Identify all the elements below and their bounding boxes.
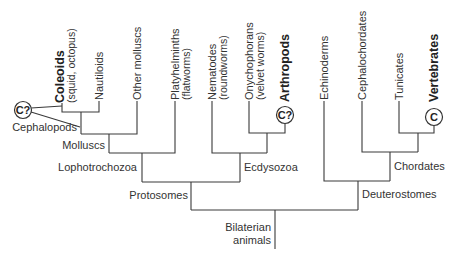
branch-cephalochordates — [362, 101, 418, 152]
marker-text: C? — [278, 109, 293, 121]
leaf-label-tunicates: Tunicates — [393, 52, 405, 100]
leaf-sublabel-nematodes: (roundworms) — [217, 35, 229, 100]
clade-labels: Cephalopods Molluscs Lophotrochozoa Ecdy… — [12, 121, 445, 246]
leaf-label-arthropods: Arthropods — [278, 34, 292, 102]
root-label-line1: Bilaterian — [225, 221, 271, 233]
leaf-label-nautiloids: Nautiloids — [93, 51, 105, 100]
leaf-label-echinoderms: Echinoderms — [318, 35, 330, 100]
marker-vertebrates: C — [426, 109, 443, 126]
branch-echinoderms — [324, 101, 390, 181]
clade-label-cephalopods: Cephalopods — [12, 121, 77, 133]
leaf-sublabel-platyhelminths: (flatworms) — [180, 48, 192, 100]
marker-text: C? — [16, 104, 31, 116]
clade-label-protosomes: Protosomes — [129, 189, 188, 201]
clade-label-ecdysozoa: Ecdysozoa — [244, 161, 299, 173]
marker-cephalopods: C? — [15, 102, 32, 119]
clade-label-chordates: Chordates — [394, 160, 445, 172]
leaf-sublabel-coleoids: (squid, octopus) — [65, 28, 77, 103]
leaf-label-vertebrates: Vertebrates — [427, 34, 441, 102]
leaf-sublabel-onychophorans: (velvet worms) — [254, 32, 266, 100]
clade-label-deuterostomes: Deuterostomes — [362, 188, 437, 200]
leaf-labels: Coleoids (squid, octopus) Nautiloids Oth… — [53, 10, 441, 103]
clade-label-lophotrochozoa: Lophotrochozoa — [58, 161, 138, 173]
leaf-label-other-molluscs: Other molluscs — [131, 26, 143, 100]
branch-platyhelminths — [109, 101, 175, 153]
root-label-line2: animals — [233, 234, 271, 246]
branch-nematodes — [212, 101, 267, 153]
phylogenetic-tree: Coleoids (squid, octopus) Nautiloids Oth… — [0, 0, 458, 265]
marker-pointer-coleoids — [31, 106, 62, 108]
leaf-label-cephalochordates: Cephalochordates — [356, 10, 368, 100]
marker-text: C — [430, 111, 438, 123]
marker-arthropods: C? — [277, 107, 294, 124]
clade-label-molluscs: Molluscs — [62, 139, 105, 151]
branch-other-molluscs — [81, 101, 137, 134]
